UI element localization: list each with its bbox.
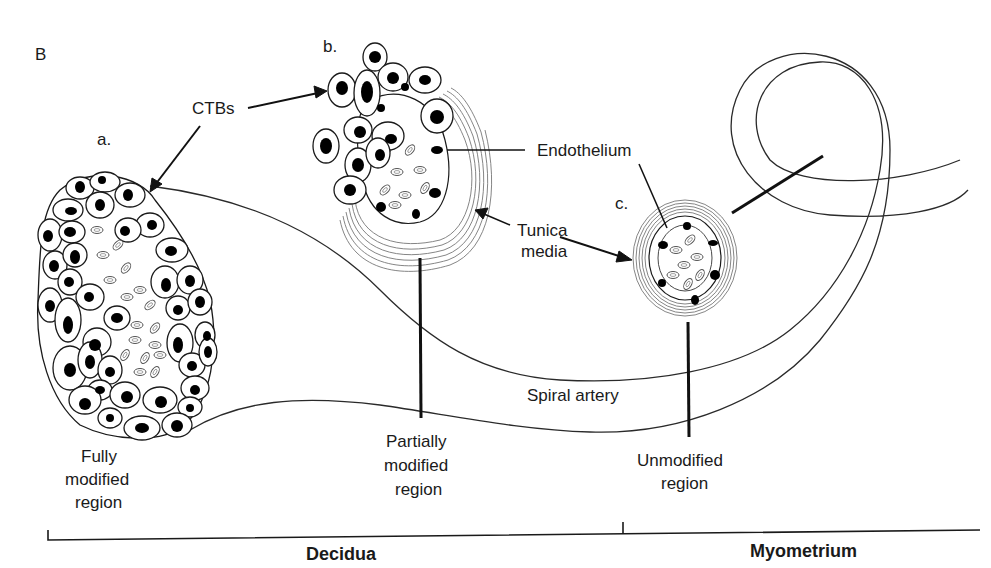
panel-label: B <box>35 44 46 65</box>
spiral-artery-diagram <box>0 0 991 568</box>
tunica-label-line2: media <box>521 241 567 262</box>
partially-modified-vessel <box>313 43 492 271</box>
spiral-artery-label: Spiral artery <box>527 385 619 406</box>
ctbs-label: CTBs <box>192 98 235 119</box>
anatomical-axis-bracket <box>48 522 980 540</box>
fully-modified-cell-cluster <box>38 172 217 440</box>
pointer-lines <box>150 86 823 437</box>
myometrium-label: Myometrium <box>750 541 857 562</box>
section-b-letter: b. <box>323 36 337 57</box>
tunica-label-line1: Tunica <box>517 220 567 241</box>
endothelium-label: Endothelium <box>537 140 632 161</box>
section-c-letter: c. <box>615 193 628 214</box>
decidua-label: Decidua <box>306 544 376 565</box>
section-a-letter: a. <box>97 129 111 150</box>
unmodified-vessel <box>633 200 737 316</box>
